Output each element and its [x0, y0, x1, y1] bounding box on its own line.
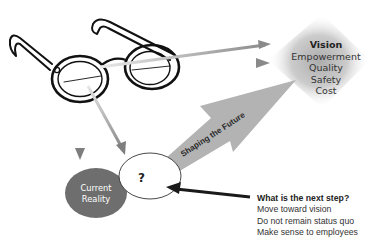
next-step-item: Do not remain status quo — [257, 216, 358, 227]
next-step-text: What is the next step? Move toward visio… — [257, 193, 358, 239]
vision-text: Vision Empowerment Quality Safety Cost — [286, 39, 366, 97]
next-step-item: Make sense to employees — [257, 227, 358, 238]
question-mark-label: ? — [138, 171, 145, 185]
arrow-glasses-to-question — [88, 86, 126, 155]
current-reality-line2: Reality — [66, 194, 126, 205]
vision-title: Vision — [286, 39, 366, 51]
vision-item-safety: Safety — [286, 74, 366, 86]
vision-item-empowerment: Empowerment — [286, 51, 366, 63]
current-reality-line1: Current — [66, 183, 126, 194]
question-node — [119, 153, 181, 199]
vision-item-quality: Quality — [286, 62, 366, 74]
vision-item-cost: Cost — [286, 85, 366, 97]
arrow-glasses-to-reality — [75, 86, 85, 160]
next-step-title: What is the next step? — [257, 193, 358, 204]
current-reality-label: Current Reality — [66, 183, 126, 205]
arrow-next-step-to-question — [166, 182, 250, 197]
next-step-item: Move toward vision — [257, 204, 358, 215]
